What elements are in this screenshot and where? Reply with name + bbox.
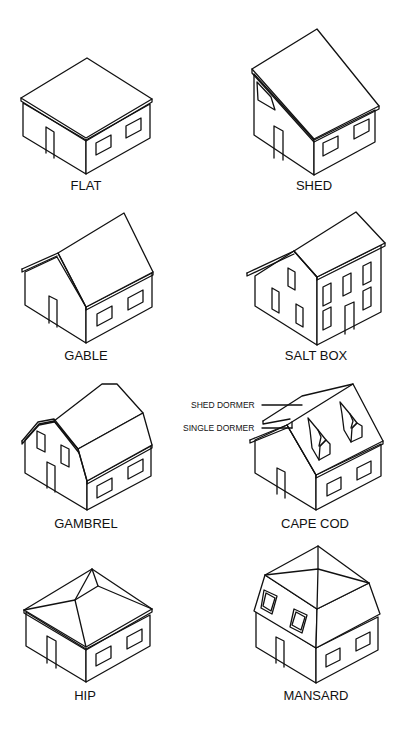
house-shed: SHED bbox=[252, 29, 379, 193]
annotation-shed-dormer: SHED DORMER bbox=[191, 400, 255, 410]
label-gambrel: GAMBREL bbox=[54, 516, 118, 531]
house-mansard: MANSARD bbox=[254, 546, 380, 703]
house-hip: HIP bbox=[24, 569, 152, 703]
label-flat: FLAT bbox=[71, 178, 102, 193]
house-gable: GABLE bbox=[22, 213, 153, 363]
label-shed: SHED bbox=[296, 178, 332, 193]
roof-styles-diagram: FLAT SHED GABLE bbox=[0, 0, 404, 734]
label-saltbox: SALT BOX bbox=[285, 348, 348, 363]
label-hip: HIP bbox=[74, 688, 96, 703]
annotation-single-dormer: SINGLE DORMER bbox=[183, 423, 254, 433]
house-flat: FLAT bbox=[21, 58, 152, 193]
label-mansard: MANSARD bbox=[283, 688, 348, 703]
label-gable: GABLE bbox=[64, 348, 108, 363]
house-capecod: SHED DORMER SINGLE DORMER CAPE COD bbox=[183, 384, 383, 531]
label-capecod: CAPE COD bbox=[281, 516, 349, 531]
house-gambrel: GAMBREL bbox=[22, 384, 152, 531]
house-saltbox: SALT BOX bbox=[247, 212, 385, 363]
